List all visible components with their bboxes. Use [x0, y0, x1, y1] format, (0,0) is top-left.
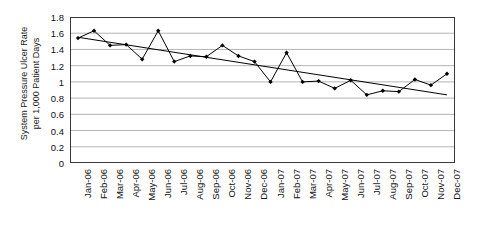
x-tick-label: Jun-07 — [355, 169, 366, 198]
y-tick-label: 1 — [38, 76, 67, 87]
y-tick-label: 0.8 — [38, 93, 67, 104]
x-tick-label: Jul-06 — [178, 169, 189, 195]
pressure-ulcer-rate-line-chart: System Pressure Ulcer Rate per 1,000 Pat… — [0, 0, 481, 248]
data-series-line — [78, 31, 447, 95]
x-tick-label: Nov-06 — [242, 169, 253, 200]
x-tick-label: May-07 — [339, 169, 350, 201]
x-tick-label: Jan-06 — [82, 169, 93, 198]
x-tick-label: Feb-07 — [291, 169, 302, 199]
gridlines — [70, 17, 455, 147]
x-tick-label: Mar-06 — [114, 169, 125, 199]
x-tick-label: Jan-07 — [275, 169, 286, 198]
data-point-marker — [156, 29, 160, 33]
data-point-marker — [76, 36, 80, 40]
plot-area — [70, 17, 455, 163]
y-tick-label: 0 — [38, 158, 67, 169]
data-point-marker — [316, 79, 320, 83]
x-tick-label: Apr-07 — [323, 169, 334, 198]
y-tick-label: 1.6 — [38, 28, 67, 39]
x-tick-label: Sep-06 — [210, 169, 221, 200]
x-tick-label: Aug-06 — [194, 169, 205, 200]
x-tick-label: May-06 — [146, 169, 157, 201]
series-polyline — [78, 31, 447, 95]
data-point-marker — [332, 86, 336, 90]
plot-border — [71, 18, 455, 163]
x-tick-label: Jul-07 — [371, 169, 382, 195]
x-tick-label: Aug-07 — [387, 169, 398, 200]
y-tick-label: 1.8 — [38, 12, 67, 23]
x-axis-tick-labels: Jan-06Feb-06Mar-06Apr-06May-06Jun-06Jul-… — [70, 163, 455, 248]
data-point-marker — [381, 89, 385, 93]
x-tick-label: Sep-07 — [403, 169, 414, 200]
y-tick-label: 0.4 — [38, 125, 67, 136]
x-tick-label: Feb-06 — [98, 169, 109, 199]
x-tick-label: Mar-07 — [307, 169, 318, 199]
x-tick-label: Oct-07 — [419, 169, 430, 198]
x-tick-label: Oct-06 — [226, 169, 237, 198]
x-tick-label: Jun-06 — [162, 169, 173, 198]
x-tick-label: Dec-07 — [451, 169, 462, 200]
y-axis-tick-labels: 00.20.40.60.811.21.41.61.8 — [38, 0, 67, 248]
y-tick-label: 0.2 — [38, 141, 67, 152]
y-tick-label: 0.6 — [38, 109, 67, 120]
plot-svg — [70, 17, 455, 163]
data-point-marker — [300, 80, 304, 84]
y-tick-label: 1.2 — [38, 60, 67, 71]
y-tick-label: 1.4 — [38, 44, 67, 55]
data-point-marker — [284, 50, 288, 54]
x-tick-label: Dec-06 — [258, 169, 269, 200]
x-tick-label: Apr-06 — [130, 169, 141, 198]
data-point-marker — [172, 59, 176, 63]
x-tick-label: Nov-07 — [435, 169, 446, 200]
y-axis-title-line-1: System Pressure Ulcer Rate — [20, 26, 32, 140]
